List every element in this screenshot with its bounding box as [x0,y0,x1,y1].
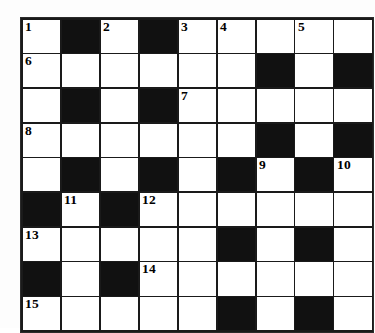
grid-cell[interactable]: 6 [23,54,60,87]
cell-number: 1 [25,20,32,34]
grid-cell[interactable] [257,228,294,261]
grid-cell-block [334,124,371,157]
grid-cell[interactable] [23,158,60,191]
cell-number: 13 [25,228,39,242]
grid-cell[interactable]: 1 [23,20,60,53]
grid-cell[interactable] [257,89,294,122]
grid-cell[interactable] [334,89,371,122]
cell-number: 5 [298,20,305,34]
cell-number: 2 [103,20,110,34]
crossword-grid[interactable]: 123456789101112131415 [20,17,374,333]
grid-cell[interactable]: 14 [140,262,177,295]
grid-cell-block [140,20,177,53]
grid-cell[interactable] [179,193,216,226]
grid-cell[interactable] [218,54,255,87]
grid-cell-block [295,228,332,261]
grid-cell-block [62,89,99,122]
grid-cell-block [62,158,99,191]
grid-cell[interactable]: 13 [23,228,60,261]
grid-cell-block [334,54,371,87]
grid-cell[interactable] [62,228,99,261]
grid-cell[interactable] [295,124,332,157]
grid-cell-block [295,297,332,330]
grid-cell-block [257,54,294,87]
grid-cell-block [101,193,138,226]
grid-cell[interactable]: 12 [140,193,177,226]
grid-cell[interactable] [140,124,177,157]
grid-cell[interactable]: 11 [62,193,99,226]
grid-cell[interactable] [62,124,99,157]
cell-number: 6 [25,54,32,68]
grid-cell[interactable] [101,158,138,191]
grid-cell[interactable] [179,54,216,87]
grid-cell[interactable] [334,20,371,53]
grid-cell[interactable] [101,89,138,122]
grid-cell[interactable] [257,262,294,295]
grid-cell[interactable]: 3 [179,20,216,53]
grid-cell[interactable] [334,297,371,330]
grid-cell[interactable] [179,158,216,191]
grid-cell[interactable] [101,228,138,261]
grid-cell[interactable] [257,193,294,226]
grid-cell[interactable] [179,124,216,157]
cell-number: 10 [337,158,351,172]
grid-cell[interactable]: 8 [23,124,60,157]
cell-number: 11 [64,193,77,207]
grid-cell[interactable] [179,228,216,261]
grid-cell[interactable] [62,297,99,330]
grid-cell[interactable] [101,124,138,157]
grid-cell[interactable] [101,297,138,330]
grid-cell[interactable] [62,54,99,87]
grid-cell[interactable]: 7 [179,89,216,122]
cell-number: 12 [142,193,156,207]
grid-cell-block [218,297,255,330]
cell-number: 14 [142,262,156,276]
grid-cell[interactable] [140,228,177,261]
grid-cell[interactable] [218,262,255,295]
grid-cell-block [140,89,177,122]
grid-cell-block [62,20,99,53]
grid-cell[interactable] [257,297,294,330]
grid-cell[interactable]: 4 [218,20,255,53]
cell-number: 8 [25,124,32,138]
grid-cell[interactable] [62,262,99,295]
cell-number: 7 [181,89,188,103]
grid-cell[interactable] [295,89,332,122]
grid-cell-block [140,158,177,191]
grid-cell[interactable] [295,262,332,295]
cell-number: 9 [259,158,266,172]
grid-cell[interactable]: 15 [23,297,60,330]
cell-number: 3 [181,20,188,34]
grid-cell-block [218,228,255,261]
cell-number: 15 [25,297,39,311]
grid-cell[interactable]: 2 [101,20,138,53]
grid-cell-block [101,262,138,295]
grid-cell[interactable] [179,262,216,295]
grid-cell-block [23,193,60,226]
grid-cell[interactable] [218,89,255,122]
grid-cell[interactable] [295,193,332,226]
grid-cell[interactable] [334,228,371,261]
cell-number: 4 [220,20,227,34]
grid-cell[interactable] [334,262,371,295]
grid-cell[interactable]: 9 [257,158,294,191]
grid-cell[interactable] [140,297,177,330]
grid-cell[interactable] [334,193,371,226]
grid-cell-block [23,262,60,295]
grid-cell[interactable] [257,20,294,53]
grid-cell-block [257,124,294,157]
grid-cell-block [218,158,255,191]
grid-cell[interactable] [23,89,60,122]
grid-cell[interactable]: 5 [295,20,332,53]
grid-cell[interactable] [218,193,255,226]
grid-cell[interactable]: 10 [334,158,371,191]
grid-cell[interactable] [179,297,216,330]
grid-cell-block [295,158,332,191]
grid-cell[interactable] [101,54,138,87]
grid-cell[interactable] [140,54,177,87]
grid-cell[interactable] [218,124,255,157]
grid-cell[interactable] [295,54,332,87]
